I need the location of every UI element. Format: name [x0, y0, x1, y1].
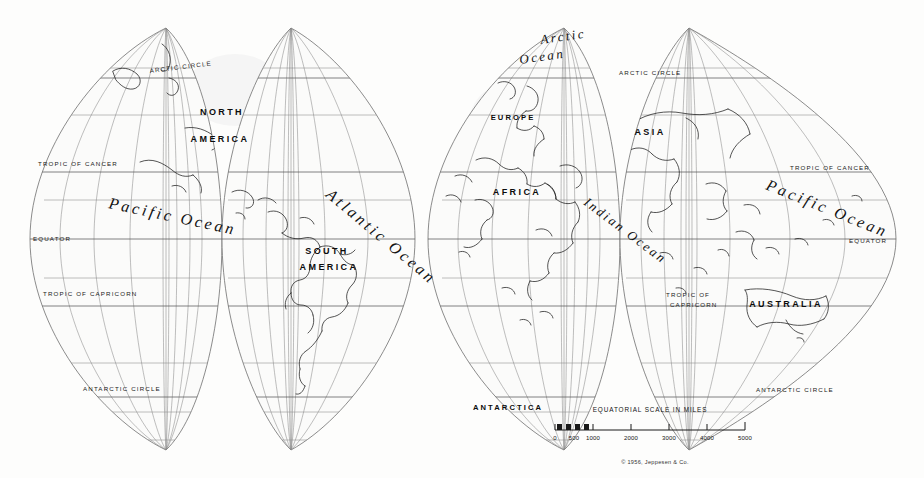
label-antarctic-circle-west: ANTARCTIC CIRCLE: [83, 385, 161, 392]
label-equator-west: EQUATOR: [33, 235, 71, 242]
ocean-label-arctic-line1: Arctic: [538, 26, 586, 47]
label-tropic-of-capricorn-east-line1: TROPIC OF: [666, 291, 710, 298]
scale-tick-0: 0: [553, 435, 557, 441]
scale-tick-500: 500: [569, 435, 580, 441]
label-tropic-of-capricorn-east-line2: CAPRICORN: [670, 301, 717, 308]
label-tropic-of-capricorn-west: TROPIC OF CAPRICORN: [43, 290, 137, 297]
scale-tick-1000: 1000: [586, 435, 601, 441]
continent-label-australia: AUSTRALIA: [749, 299, 823, 309]
continent-label-north-america: AMERICA: [191, 134, 250, 144]
scale-tick-5000: 5000: [738, 435, 753, 441]
continent-label-asia: ASIA: [634, 127, 665, 137]
continent-label-south: SOUTH: [305, 246, 349, 256]
scale-tick-2000: 2000: [624, 435, 639, 441]
world-gore-map: Pacific Ocean Atlantic Ocean Indian Ocea…: [0, 0, 924, 478]
label-arctic-circle-east: ARCTIC CIRCLE: [619, 69, 681, 76]
continent-label-south-america: AMERICA: [300, 262, 359, 272]
continent-label-antarctica: ANTARCTICA: [473, 403, 543, 412]
label-tropic-of-cancer-west: TROPIC OF CANCER: [38, 160, 118, 167]
label-antarctic-circle-east: ANTARCTIC CIRCLE: [756, 386, 834, 393]
copyright-notice: © 1956, Jeppesen & Co.: [621, 459, 689, 465]
scale-title: EQUATORIAL SCALE IN MILES: [593, 406, 708, 414]
scale-tick-3000: 3000: [662, 435, 677, 441]
continent-label-africa: AFRICA: [493, 187, 541, 197]
label-tropic-of-cancer-east: TROPIC OF CANCER: [790, 164, 870, 171]
scale-tick-4000: 4000: [700, 435, 715, 441]
continent-label-europe: EUROPE: [491, 113, 536, 122]
continent-label-north: NORTH: [200, 107, 244, 117]
label-equator-east: EQUATOR: [849, 237, 887, 244]
gore-3: [426, 28, 636, 450]
map-canvas: Pacific Ocean Atlantic Ocean Indian Ocea…: [0, 0, 924, 478]
scale-tick-labels: 0 500 1000 2000 3000 4000 5000: [553, 435, 752, 441]
